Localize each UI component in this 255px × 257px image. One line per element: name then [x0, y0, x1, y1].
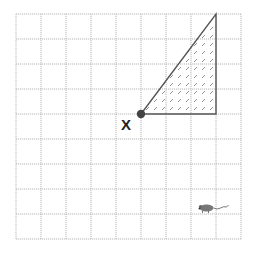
point-x-dot	[137, 110, 145, 118]
mouse-icon	[199, 205, 229, 213]
point-x-label: X	[121, 116, 131, 133]
grid-diagram: X	[0, 0, 255, 257]
